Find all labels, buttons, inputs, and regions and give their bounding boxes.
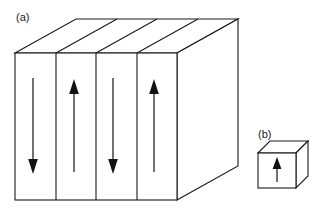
- panel-b-cube: (b): [258, 128, 308, 188]
- panel-a-label: (a): [16, 11, 29, 23]
- panel-b-label: (b): [258, 128, 271, 140]
- panel-a-slab: (a): [15, 11, 238, 200]
- magnetic-domain-diagram: (a) (b): [0, 0, 325, 213]
- figure-container: (a) (b): [0, 0, 325, 213]
